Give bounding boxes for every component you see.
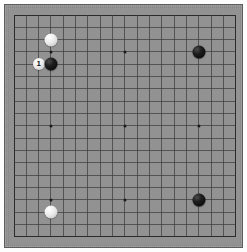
stone-black-upper-left[interactable] [44,58,57,71]
stone-move-number: 1 [36,60,40,68]
stone-black-lower-right[interactable] [192,193,205,206]
stone-white-upper-left[interactable] [44,33,57,46]
stone-black-upper-right[interactable] [192,45,205,58]
stone-white-move-1[interactable]: 1 [33,58,45,70]
stone-layer[interactable]: 1 [0,0,247,252]
go-board-root: 1 [0,0,247,252]
stone-white-lower-left[interactable] [44,206,57,219]
